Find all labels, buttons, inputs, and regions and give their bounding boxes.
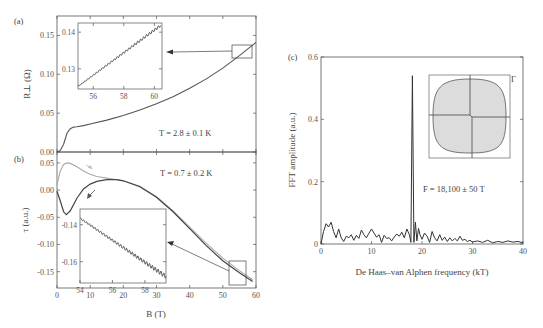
x-axis-label-c: De Haas–van Alphen frequency (kT)	[356, 267, 489, 277]
figure: (a) 0.000.050.100.15 R⊥ (Ω) T = 2.8 ± 0.…	[0, 0, 543, 328]
inset-frame-b	[80, 209, 166, 283]
fermi-surface-contour	[433, 79, 506, 153]
x-tick-label: 58	[120, 92, 128, 101]
x-tick-label: 60	[252, 291, 260, 300]
x-tick-label: 30	[153, 291, 161, 300]
arrow-b	[172, 244, 229, 271]
gamma-label: Γ	[511, 74, 516, 84]
inset-b: -0.14-0.16545658	[61, 209, 166, 295]
y-axis-label-b: τ (a.u.)	[20, 208, 30, 233]
panel-a: (a) 0.000.050.100.15 R⊥ (Ω) T = 2.8 ± 0.…	[14, 16, 256, 157]
x-tick-label: 40	[519, 247, 527, 256]
y-tick-label: 0.05	[40, 109, 54, 118]
x-tick-label: 20	[119, 291, 127, 300]
arrow-head-a	[166, 50, 173, 55]
y-tick-label: -0.14	[61, 221, 77, 230]
y-tick-label: 0.00	[40, 148, 54, 157]
x-tick-label: 10	[368, 247, 376, 256]
y-tick-label: -0.15	[37, 268, 54, 277]
arrow-a	[172, 51, 232, 52]
sweep-arrow-up-head	[88, 165, 93, 169]
x-tick-label: 60	[151, 92, 159, 101]
panel-label-b: (b)	[14, 154, 24, 164]
x-ticks-c: 010203040	[319, 241, 527, 256]
x-tick-label: 54	[76, 286, 84, 295]
annotation-a: T = 2.8 ± 0.1 K	[159, 128, 212, 138]
y-tick-label: -0.05	[37, 213, 54, 222]
zoom-box-a	[232, 45, 252, 58]
x-tick-label: 20	[418, 247, 426, 256]
x-tick-label: 50	[219, 291, 227, 300]
fermi-surface-inset: Γ	[429, 74, 516, 158]
y-tick-label: 0.13	[62, 65, 75, 74]
y-tick-label: -0.10	[37, 240, 54, 249]
y-tick-label: 0.15	[40, 31, 54, 40]
arrow-head-b	[167, 241, 174, 246]
y-tick-label: 0.05	[40, 159, 54, 168]
y-tick-label: 0.00	[40, 186, 54, 195]
x-tick-label: 40	[186, 291, 194, 300]
panel-label-c: (c)	[288, 52, 298, 62]
x-tick-label: 10	[86, 291, 94, 300]
panel-label-a: (a)	[14, 16, 24, 26]
panel-c: (c) 00.20.40.6 010203040 FFT amplitude (…	[287, 52, 527, 277]
x-tick-label: 56	[90, 92, 98, 101]
annotation-c: F = 18,100 ± 50 T	[423, 184, 486, 194]
y-tick-label: 0.4	[308, 115, 318, 124]
y-tick-label: 0	[314, 240, 318, 249]
y-tick-label: 0.2	[308, 178, 318, 187]
x-tick-label: 30	[469, 247, 477, 256]
x-axis-label-b: B (T)	[146, 309, 166, 319]
inset-a: 0.130.14565860	[62, 23, 162, 101]
annotation-b: T = 0.7 ± 0.2 K	[160, 168, 213, 178]
x-tick-label: 0	[319, 247, 323, 256]
x-tick-label: 58	[141, 286, 149, 295]
y-tick-label: 0.14	[62, 28, 75, 37]
y-axis-label-c: FFT amplitude (a.u.)	[287, 113, 297, 188]
y-tick-label: -0.16	[61, 258, 77, 267]
y-tick-label: 0.6	[308, 53, 318, 62]
panel-b: (b) 0.050.00-0.05-0.10-0.15 010203040506…	[14, 152, 260, 319]
x-tick-label: 56	[109, 286, 117, 295]
y-axis-label-a: R⊥ (Ω)	[22, 69, 32, 98]
x-tick-label: 0	[55, 291, 59, 300]
y-tick-label: 0.10	[40, 70, 54, 79]
